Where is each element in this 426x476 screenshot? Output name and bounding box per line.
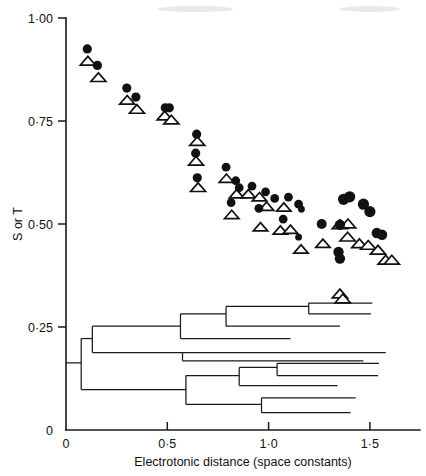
data-point-s [83, 44, 92, 53]
scatter-dendrogram-chart: 00·250·500·751·00 00·51·01·5 Electrotoni… [0, 0, 426, 476]
data-point-s [279, 215, 288, 224]
data-point-s [235, 183, 244, 192]
data-point-t [189, 156, 204, 165]
scan-artifact-group [157, 6, 400, 12]
dendrogram-group [66, 303, 386, 413]
data-point-s [193, 173, 202, 182]
data-point-s [93, 61, 102, 70]
data-point-t [241, 190, 255, 198]
data-point-s [317, 219, 327, 229]
series-S-markers [83, 44, 388, 264]
y-tick-label: 1·00 [28, 12, 53, 26]
data-point-t [225, 210, 239, 218]
data-point-t [283, 225, 297, 233]
data-point-t [340, 232, 355, 241]
axes-group [66, 18, 420, 430]
data-point-t [253, 223, 267, 231]
data-point-s [227, 198, 236, 207]
x-tick-label: 1·5 [361, 437, 379, 451]
data-point-s [295, 234, 302, 241]
data-point-s [254, 204, 263, 213]
x-tick-label: 0 [63, 437, 70, 451]
data-point-t [191, 183, 206, 192]
y-tick-label: 0 [46, 424, 53, 438]
y-tick-label: 0·25 [28, 321, 53, 335]
y-tick-label: 0·50 [28, 218, 53, 232]
y-tick-label: 0·75 [28, 115, 53, 129]
data-point-s [364, 206, 375, 217]
data-point-t [294, 245, 308, 253]
x-tick-label: 0·5 [158, 437, 176, 451]
data-point-t [129, 105, 144, 114]
data-point-t [277, 203, 291, 211]
data-point-s [248, 182, 257, 191]
data-point-s [377, 230, 387, 240]
data-point-s [165, 103, 174, 112]
data-point-t [91, 73, 106, 82]
data-point-s [191, 149, 200, 158]
data-point-s [192, 130, 201, 139]
x-axis-title: Electrotonic distance (space constants) [134, 455, 351, 469]
x-tick-label: 1·0 [260, 437, 278, 451]
data-point-s [335, 253, 345, 263]
x-tick-group: 00·51·01·5 [63, 422, 379, 451]
data-point-s [222, 163, 231, 172]
data-point-s [270, 194, 279, 203]
y-axis-title: S or T [11, 207, 25, 241]
data-point-s [335, 220, 345, 230]
data-point-s [261, 187, 270, 196]
figure-container: 00·250·500·751·00 00·51·01·5 Electrotoni… [0, 0, 426, 476]
data-point-t [316, 239, 330, 247]
y-tick-group: 00·250·500·751·00 [28, 12, 66, 438]
data-point-s [298, 206, 305, 213]
data-point-s [344, 191, 355, 202]
data-point-s [122, 83, 131, 92]
data-point-s [131, 93, 140, 102]
data-point-s [284, 193, 293, 202]
